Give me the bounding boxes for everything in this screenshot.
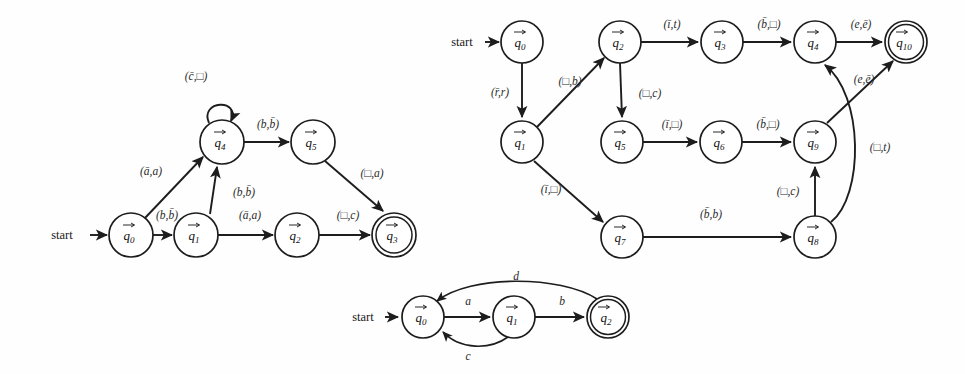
start-label-right: start [451, 35, 473, 49]
right-automaton: start (r̄,r) (□,b) (ī,t) (b̄,□) (e,ē) (… [451, 17, 927, 258]
state-node-b-q0[interactable]: q0 [402, 296, 444, 338]
edge-label-q1-q2-r: (□,b) [558, 75, 581, 88]
state-node-r-q6[interactable]: q6 [700, 121, 742, 163]
state-node-q5[interactable]: q5 [291, 120, 335, 164]
edge-label-q4-q5: (b,b̄) [257, 117, 279, 130]
edge-label-q2-q3: (□,c) [337, 209, 360, 222]
edge-label-b-q1-q0: c [465, 350, 470, 362]
state-node-b-q2-accepting[interactable]: q2 [587, 296, 629, 338]
state-node-q3-accepting[interactable]: q3 [372, 213, 416, 257]
state-node-r-q8[interactable]: q8 [794, 216, 836, 258]
state-node-b-q1[interactable]: q1 [493, 296, 535, 338]
edge-q2-q5-r [620, 63, 622, 117]
start-arrow-bottom: start [352, 310, 398, 324]
edge-label-text: (c̄,□) [185, 70, 208, 83]
edge-b-q1-q0-curve [443, 332, 508, 346]
edge-label-q4-q10-r: (e,ē) [851, 18, 872, 31]
state-node-r-q9[interactable]: q9 [794, 121, 836, 163]
state-node-r-q5[interactable]: q5 [601, 121, 643, 163]
state-node-q2[interactable]: q2 [275, 213, 319, 257]
edge-label-q9-q10-r: (e,ē) [854, 73, 875, 86]
edge-label-q8-q9-r: (□,c) [777, 185, 800, 198]
edge-label-b-q2-q0: d [513, 270, 519, 282]
edge-q1-q2-r [537, 58, 604, 127]
edge-label-q0-q1: (b,b̄) [156, 208, 178, 221]
edge-label-q5-q3: (□,a) [360, 167, 383, 180]
edge-label-q2-q3-r: (ī,t) [664, 18, 681, 31]
edge-label-q3-q4-r: (b̄,□) [757, 17, 780, 30]
edge-label-b-q1-q2: b [559, 295, 565, 307]
edge-q9-q10-r [827, 61, 893, 123]
start-arrow-right: start [451, 35, 499, 49]
bottom-automaton: start a b c d q0 q1 [352, 270, 629, 362]
start-label-left: start [51, 228, 73, 242]
edge-q1-q4 [210, 167, 217, 214]
state-node-r-q10-accepting[interactable]: q10 [885, 21, 927, 63]
edge-label-q7-q8-r: (b̄,b) [700, 207, 722, 220]
state-node-r-q4[interactable]: q4 [794, 21, 836, 63]
edge-label-q1-q7-r: (ī,□) [541, 183, 562, 196]
state-node-q0[interactable]: q0 [109, 213, 153, 257]
edge-label-q1-q2: (ā,a) [239, 209, 261, 222]
state-node-r-q0[interactable]: q0 [501, 21, 543, 63]
state-node-r-q7[interactable]: q7 [601, 216, 643, 258]
state-node-r-q2[interactable]: q2 [599, 21, 641, 63]
edge-label-q2-q5-r: (□,c) [639, 87, 662, 100]
start-label-bottom: start [352, 310, 374, 324]
diagram-canvas: start (c̄,□) (ā,a) (b,b̄) (b,b̄) (ā,a)… [0, 0, 965, 374]
edge-label-q5-q6-r: (ī,□) [662, 118, 683, 131]
edge-label-q0-q1-r: (r̄,r) [491, 86, 509, 99]
automata-svg: start (c̄,□) (ā,a) (b,b̄) (b,b̄) (ā,a)… [0, 0, 965, 374]
state-node-q4[interactable]: q4 [200, 120, 244, 164]
edge-label-q6-q9-r: (b̄,□) [756, 117, 779, 130]
edge-label-q4-self: (c̄,□) [185, 70, 208, 83]
edge-label-q8-q4-r: (□,t) [870, 141, 891, 154]
start-arrow-left: start [51, 228, 107, 242]
edge-label-q0-q4: (ā,a) [140, 165, 162, 178]
state-node-r-q3[interactable]: q3 [701, 21, 743, 63]
edge-label-b-q0-q1: a [465, 295, 471, 307]
state-node-q1[interactable]: q1 [174, 213, 218, 257]
state-node-r-q1[interactable]: q1 [501, 121, 543, 163]
edge-label-q1-q4: (b,b̄) [233, 185, 255, 198]
left-automaton: start (c̄,□) (ā,a) (b,b̄) (b,b̄) (ā,a)… [51, 70, 416, 257]
